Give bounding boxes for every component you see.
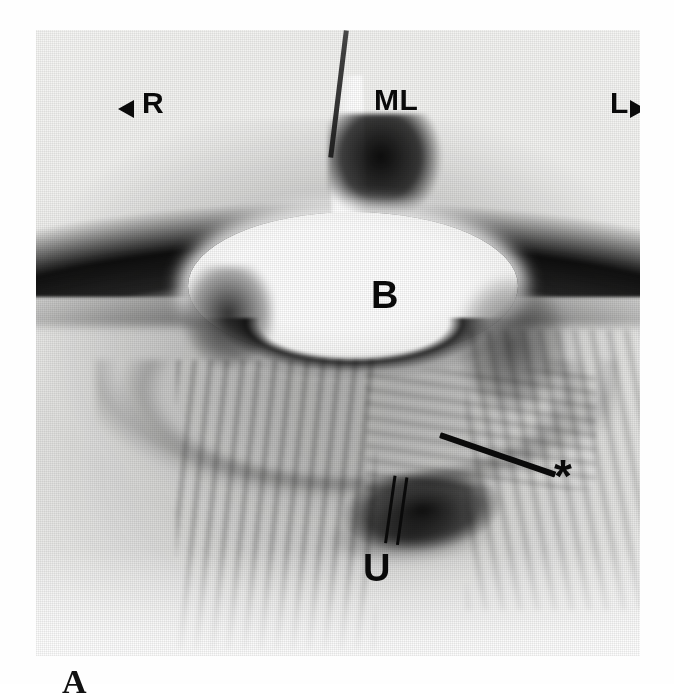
uterus-halo (304, 493, 518, 577)
ultrasound-image: R L ML B * U (36, 30, 640, 656)
label-uterus: U (363, 549, 391, 587)
deep-arc-echoes (96, 360, 616, 656)
midline-cleft (327, 75, 370, 276)
tissue-echo-field (36, 120, 640, 656)
label-asterisk: * (554, 460, 572, 492)
film-grain (36, 30, 640, 656)
midline-shadow-blob (328, 114, 460, 236)
left-arrowhead-icon (630, 100, 640, 118)
right-arrowhead-icon (118, 100, 134, 118)
bladder-lumen (188, 212, 518, 360)
label-orientation-left: L (610, 88, 629, 118)
shadow-bands-left (176, 360, 376, 650)
uterus-mass (332, 461, 520, 565)
left-acoustic-shadow (154, 266, 274, 386)
image-vignette (36, 30, 640, 656)
label-bladder: B (371, 276, 399, 314)
far-field-fade (36, 550, 640, 656)
midline-streak (328, 30, 349, 158)
asterisk-leader-line (439, 432, 556, 477)
subcutaneous-layer (36, 126, 640, 326)
bladder-posterior-wall (186, 318, 522, 388)
label-midline: ML (374, 85, 418, 115)
uterus-double-line-pointer (384, 476, 408, 545)
right-acoustic-shadow (446, 276, 596, 436)
label-orientation-right: R (142, 88, 164, 118)
figure-panel-label: A (62, 663, 87, 697)
